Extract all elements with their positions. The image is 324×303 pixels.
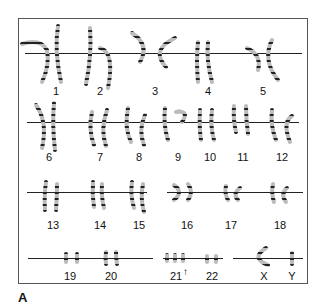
chromosome-label-22: 22 <box>206 270 218 282</box>
chromosome-label-20: 20 <box>105 270 117 282</box>
chromosome-label-17: 17 <box>225 219 237 231</box>
chromosome-label-y: Y <box>288 270 295 282</box>
chromosome-label-x: X <box>260 270 267 282</box>
panel-label: A <box>18 290 27 303</box>
chromosome-label-3: 3 <box>152 85 158 97</box>
chromosome-label-10: 10 <box>204 151 216 163</box>
chromosome-label-18: 18 <box>274 219 286 231</box>
chromosome-label-7: 7 <box>97 151 103 163</box>
chromosome-label-9: 9 <box>175 151 181 163</box>
chromosome-label-4: 4 <box>205 85 211 97</box>
chromosome-label-8: 8 <box>136 151 142 163</box>
chromosome-label-16: 16 <box>181 219 193 231</box>
chromosome-label-14: 14 <box>94 219 106 231</box>
chromosome-label-6: 6 <box>46 151 52 163</box>
chromosome-label-19: 19 <box>64 270 76 282</box>
chromosome-label-13: 13 <box>47 219 59 231</box>
chromosome-label-5: 5 <box>260 85 266 97</box>
chromosome-label-11: 11 <box>237 151 248 163</box>
chromosome-label-21: 21 <box>170 270 182 282</box>
chromosome-label-12: 12 <box>276 151 288 163</box>
chromosome-label-1: 1 <box>53 85 59 97</box>
arrow-up-icon: ↑ <box>183 266 188 277</box>
chromosome-label-15: 15 <box>133 219 145 231</box>
chromosome-label-2: 2 <box>97 85 103 97</box>
